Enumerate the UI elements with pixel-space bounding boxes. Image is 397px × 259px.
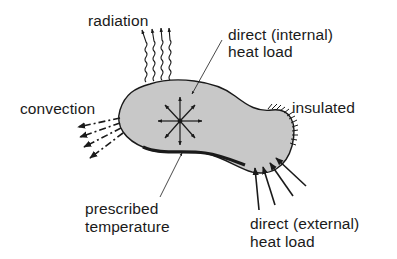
body-shape (119, 80, 294, 173)
external-load-label-line2: heat load (250, 233, 315, 250)
convection-arrows (78, 118, 123, 158)
insulated-label: insulated (292, 99, 355, 116)
prescribed-label-line2: temperature (85, 218, 170, 235)
internal-load-label-line2: heat load (228, 43, 293, 60)
convection-label: convection (20, 100, 95, 117)
radiation-label: radiation (88, 12, 148, 29)
prescribed-label-line1: prescribed (85, 200, 158, 217)
prescribed-leader (160, 153, 182, 197)
radiation-arrows (142, 28, 171, 82)
external-load-label-line1: direct (external) (250, 215, 359, 232)
internal-load-label-line1: direct (internal) (228, 26, 333, 43)
